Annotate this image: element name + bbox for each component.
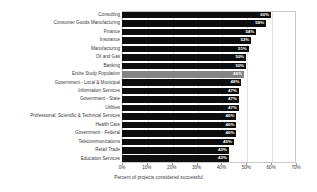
- bar: 43%: [122, 147, 229, 154]
- bar: 47%: [122, 105, 239, 112]
- x-axis-ticks: 0%10%20%30%40%50%60%70%: [0, 164, 317, 173]
- bar-track: 60%: [122, 12, 296, 19]
- bar-track: 46%: [122, 113, 296, 120]
- bar-track: 47%: [122, 88, 296, 95]
- category-label: Consumer Goods Manufacturing: [2, 19, 120, 27]
- bar-row: Government - Local & Municipal48%: [0, 79, 317, 87]
- category-label: Telecommunications: [2, 138, 120, 146]
- x-tick-mark: [271, 163, 272, 165]
- bar-track: 46%: [122, 130, 296, 137]
- bar-row: Government - State47%: [0, 95, 317, 103]
- category-label: Education Services: [2, 155, 120, 163]
- bar: 46%: [122, 113, 236, 120]
- bar: 51%: [122, 46, 249, 53]
- x-tick-label: 0%: [111, 164, 133, 172]
- category-label: Utilities: [2, 104, 120, 112]
- category-label: Entire Study Population: [2, 70, 120, 78]
- bar: 47%: [122, 88, 239, 95]
- bar-chart: Consulting60%Consumer Goods Manufacturin…: [0, 0, 317, 192]
- bar-value-label: 49%: [233, 71, 242, 78]
- bar-track: 54%: [122, 29, 296, 36]
- bar-row: Banking50%: [0, 62, 317, 70]
- bar: 54%: [122, 29, 256, 36]
- bar: 60%: [122, 12, 271, 19]
- bar-value-label: 46%: [226, 122, 235, 129]
- bar-row: Retail Trade43%: [0, 146, 317, 154]
- x-axis-title: Percent of projects considered successfu…: [0, 175, 317, 180]
- bar-value-label: 48%: [231, 79, 240, 86]
- bar: 45%: [122, 139, 234, 146]
- bar-value-label: 47%: [228, 88, 237, 95]
- bar: 48%: [122, 79, 241, 86]
- x-tick-label: 40%: [210, 164, 232, 172]
- bar: 58%: [122, 20, 266, 27]
- bar-value-label: 60%: [260, 12, 269, 19]
- category-label: Banking: [2, 62, 120, 70]
- bar-track: 50%: [122, 63, 296, 70]
- bar-value-label: 43%: [218, 155, 227, 162]
- category-label: Government - State: [2, 95, 120, 103]
- x-tick-label: 70%: [285, 164, 307, 172]
- x-tick-mark: [197, 163, 198, 165]
- category-label: Insurance: [2, 36, 120, 44]
- bar-value-label: 46%: [226, 113, 235, 120]
- bar-track: 58%: [122, 20, 296, 27]
- x-tick-label: 30%: [186, 164, 208, 172]
- bar: 49%: [122, 71, 244, 78]
- bar-row: Information Services47%: [0, 87, 317, 95]
- x-tick-mark: [122, 163, 123, 165]
- bar-value-label: 50%: [235, 54, 244, 61]
- bar-track: 46%: [122, 122, 296, 129]
- bar-value-label: 51%: [238, 46, 247, 53]
- bar-row: Insurance52%: [0, 36, 317, 44]
- bar-rows: Consulting60%Consumer Goods Manufacturin…: [0, 11, 317, 163]
- x-tick-label: 60%: [260, 164, 282, 172]
- bar-value-label: 58%: [255, 20, 264, 27]
- bar-track: 45%: [122, 139, 296, 146]
- category-label: Information Services: [2, 87, 120, 95]
- bar-row: Consumer Goods Manufacturing58%: [0, 19, 317, 27]
- bar: 46%: [122, 122, 236, 129]
- x-tick-label: 50%: [235, 164, 257, 172]
- bar-row: Consulting60%: [0, 11, 317, 19]
- bar-track: 47%: [122, 105, 296, 112]
- x-tick-mark: [246, 163, 247, 165]
- bar-value-label: 45%: [223, 139, 232, 146]
- category-label: Manufacturing: [2, 45, 120, 53]
- bar-track: 43%: [122, 147, 296, 154]
- bar-row: Finance54%: [0, 28, 317, 36]
- x-tick-mark: [172, 163, 173, 165]
- bar-value-label: 50%: [235, 63, 244, 70]
- x-tick-label: 10%: [136, 164, 158, 172]
- category-label: Professional, Scientific & Technical Ser…: [2, 112, 120, 120]
- bar-row: Professional, Scientific & Technical Ser…: [0, 112, 317, 120]
- category-label: Retail Trade: [2, 146, 120, 154]
- bar: 50%: [122, 63, 246, 70]
- bar-track: 48%: [122, 79, 296, 86]
- bar-track: 52%: [122, 37, 296, 44]
- category-label: Health Care: [2, 121, 120, 129]
- bar-row: Utilities47%: [0, 104, 317, 112]
- x-tick-mark: [296, 163, 297, 165]
- bar: 47%: [122, 96, 239, 103]
- bar-row: Entire Study Population49%: [0, 70, 317, 78]
- category-label: Government - Federal: [2, 129, 120, 137]
- category-label: Consulting: [2, 11, 120, 19]
- bar: 52%: [122, 37, 251, 44]
- bar-track: 47%: [122, 96, 296, 103]
- bar-value-label: 43%: [218, 147, 227, 154]
- bar-track: 51%: [122, 46, 296, 53]
- bar-row: Manufacturing51%: [0, 45, 317, 53]
- bar-row: Government - Federal46%: [0, 129, 317, 137]
- bar-row: Health Care46%: [0, 121, 317, 129]
- bar-value-label: 46%: [226, 130, 235, 137]
- category-label: Oil and Gas: [2, 53, 120, 61]
- bar: 43%: [122, 155, 229, 162]
- bar: 50%: [122, 54, 246, 61]
- bar-row: Oil and Gas50%: [0, 53, 317, 61]
- bar-value-label: 47%: [228, 96, 237, 103]
- chart-title: [0, 0, 317, 1]
- category-label: Government - Local & Municipal: [2, 79, 120, 87]
- bar-row: Telecommunications45%: [0, 138, 317, 146]
- bar-track: 43%: [122, 155, 296, 162]
